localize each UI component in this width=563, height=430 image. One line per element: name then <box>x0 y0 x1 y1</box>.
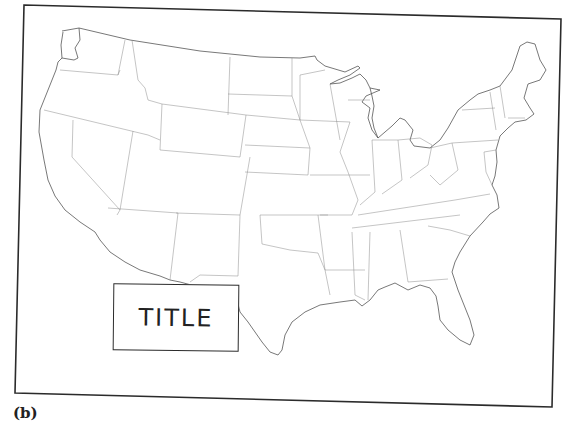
state-borders <box>44 40 525 300</box>
map-title-box: TITLE <box>113 283 240 351</box>
map-title-label: TITLE <box>138 303 213 332</box>
figure-caption: (b) <box>13 404 38 422</box>
map-frame <box>15 5 561 407</box>
us-outline-map <box>0 0 563 430</box>
lake-michigan-outline <box>370 88 378 138</box>
